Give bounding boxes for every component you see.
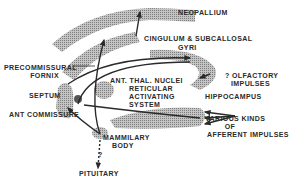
- reticular-system-region: [110, 108, 205, 129]
- label-ant-commissure: ANT COMMISSURE: [9, 111, 79, 118]
- label-mammilary: MAMMILARY: [103, 134, 150, 141]
- label-precommissural: PRECOMMISSURAL: [4, 64, 70, 71]
- label-gyri: GYRI: [178, 44, 197, 51]
- label-olfactory: ? OLFACTORY: [225, 72, 278, 79]
- label-afferent-impulses: AFFERENT IMPULSES: [207, 131, 289, 138]
- label-septum: SEPTUM: [29, 92, 61, 99]
- label-reticular: RETICULAR: [129, 85, 173, 92]
- label-body: BODY: [112, 142, 134, 149]
- label-ant-thal-nuclei: ANT. THAL. NUCLEI: [110, 77, 183, 84]
- label-question-mark: ?: [98, 151, 103, 158]
- label-hippocampus: HIPPOCAMPUS: [205, 93, 262, 100]
- label-neopallium: NEOPALLIUM: [178, 9, 228, 16]
- label-system: SYSTEM: [129, 101, 160, 108]
- label-cingulum: CINGULUM & SUBCALLOSAL: [144, 35, 252, 42]
- label-various-kinds: VARIOUS KINDS: [205, 115, 265, 122]
- label-impulses: IMPULSES: [231, 80, 270, 87]
- label-pituitary: PITUITARY: [79, 170, 119, 177]
- label-fornix: FORNIX: [4, 72, 59, 79]
- label-of: OF: [205, 123, 255, 130]
- label-activating: ACTIVATING: [129, 93, 175, 100]
